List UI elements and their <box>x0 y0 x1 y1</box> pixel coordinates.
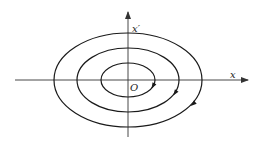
diagram-svg <box>0 0 257 145</box>
phase-portrait-diagram: x′ x O <box>0 0 257 145</box>
x-axis-label: x <box>230 70 236 80</box>
outer-direction-arrow-icon <box>189 100 196 107</box>
y-axis-label: x′ <box>132 24 140 34</box>
origin-label: O <box>130 83 138 93</box>
